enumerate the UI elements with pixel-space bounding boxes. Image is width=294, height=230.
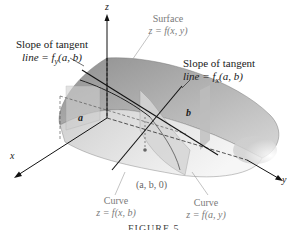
curve1-title: Curve — [86, 196, 146, 206]
point-a-label: a — [78, 113, 83, 123]
leader-curve1 — [115, 172, 125, 195]
tangent-fx-args: (a, b) — [219, 70, 243, 82]
surface-equation: z = f(x, y) — [140, 26, 196, 36]
tangent-fy-label: Slope of tangent line = fy(a, b) — [2, 39, 102, 66]
point-b-label: b — [186, 108, 191, 118]
curve2-label: Curve z = f(a, y) — [176, 198, 236, 220]
figure-caption: FIGURE 5 — [128, 224, 180, 230]
point-a-b-0 — [143, 148, 147, 152]
curve1-label: Curve z = f(x, b) — [86, 196, 146, 218]
y-axis-label: y — [282, 175, 286, 185]
tangent-fx-label: Slope of tangent line = fx(a, b) — [183, 58, 255, 85]
surface-title: Surface — [140, 14, 196, 24]
z-axis-label: z — [105, 2, 109, 12]
curve2-title: Curve — [176, 198, 236, 208]
curve2-equation: z = f(a, y) — [176, 210, 236, 220]
tangent-fy-text: line = f — [22, 51, 54, 63]
curve1-equation: z = f(x, b) — [86, 208, 146, 218]
origin-point-label: (a, b, 0) — [136, 180, 167, 190]
tangent-fy-line1: Slope of tangent — [2, 39, 102, 50]
tangent-fx-line1: Slope of tangent — [183, 58, 255, 69]
tangent-fy-args: (a, b) — [58, 51, 82, 63]
x-axis-label: x — [10, 151, 14, 161]
vertical-slice — [200, 85, 210, 150]
tangent-fx-text: line = f — [183, 70, 215, 82]
tangent-fx-line2: line = fx(a, b) — [183, 71, 255, 85]
tangent-fy-line2: line = fy(a, b) — [2, 52, 102, 66]
surface-label: Surface z = f(x, y) — [140, 14, 196, 36]
